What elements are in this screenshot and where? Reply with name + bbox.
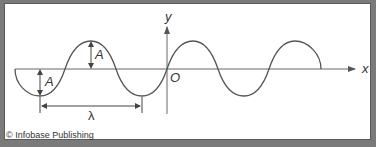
copyright-text: © Infobase Publishing <box>6 130 94 140</box>
wave-diagram <box>0 0 376 147</box>
wavelength-label: λ <box>88 109 95 122</box>
x-axis-label: x <box>362 62 369 75</box>
amplitude-label-trough: A <box>45 75 54 88</box>
amplitude-label-peak: A <box>95 48 104 61</box>
y-axis-label: y <box>165 10 172 23</box>
origin-label: O <box>170 71 180 84</box>
